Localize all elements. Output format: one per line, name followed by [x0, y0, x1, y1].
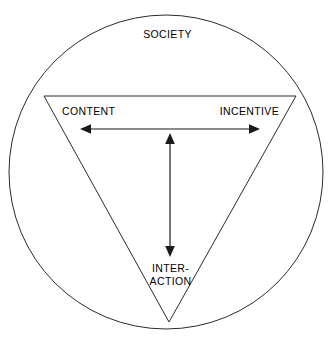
diagram-canvas: SOCIETY CONTENT INCENTIVE INTER- ACTION [0, 0, 335, 344]
interaction-label-line-2: ACTION [0, 275, 335, 288]
content-incentive-arrow-head-right [249, 124, 260, 134]
incentive-interaction-arrow [165, 133, 175, 257]
content-incentive-arrow [80, 124, 260, 134]
content-incentive-arrow-head-left [80, 124, 91, 134]
incentive-label: INCENTIVE [0, 105, 279, 118]
interaction-label: INTER- ACTION [0, 262, 335, 288]
incentive-interaction-arrow-head-top [165, 133, 175, 144]
diagram-graphics [0, 0, 335, 344]
society-label: SOCIETY [0, 28, 335, 41]
interaction-label-line-1: INTER- [152, 262, 189, 274]
incentive-interaction-arrow-head-bottom [165, 246, 175, 257]
